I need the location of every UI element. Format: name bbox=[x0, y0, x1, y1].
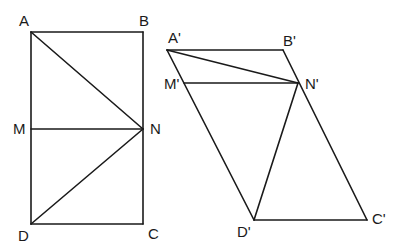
segment-an bbox=[31, 32, 143, 129]
diagram-canvas: A B C D M N A' B' C' D' M' N' bbox=[0, 0, 398, 249]
segment-d1n1 bbox=[254, 83, 298, 220]
label-n-prime: N' bbox=[305, 76, 319, 91]
label-d: D bbox=[18, 228, 29, 243]
segment-a1n1 bbox=[167, 50, 298, 83]
geometry-drawing bbox=[0, 0, 398, 249]
label-d-prime: D' bbox=[237, 224, 251, 239]
label-a-prime: A' bbox=[168, 30, 181, 45]
label-c: C bbox=[148, 226, 159, 241]
segment-b1c1 bbox=[283, 50, 367, 220]
label-b: B bbox=[139, 13, 149, 28]
label-m-prime: M' bbox=[164, 76, 179, 91]
label-a: A bbox=[19, 13, 29, 28]
label-b-prime: B' bbox=[283, 33, 296, 48]
segment-d1a1 bbox=[167, 50, 254, 220]
label-n: N bbox=[150, 121, 161, 136]
label-m: M bbox=[13, 121, 26, 136]
segment-dn bbox=[31, 129, 143, 224]
label-c-prime: C' bbox=[372, 211, 386, 226]
